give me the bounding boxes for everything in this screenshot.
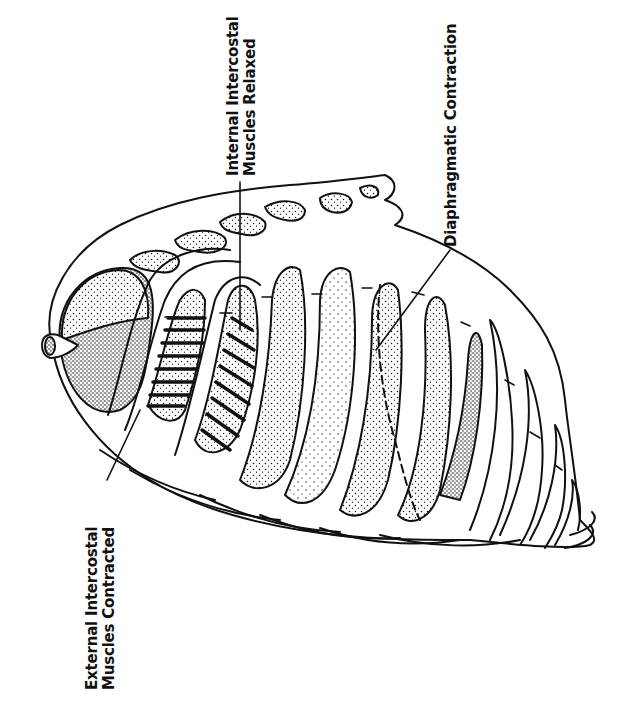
label-external-line2: Muscles Contracted [101, 527, 118, 690]
label-internal-line1: Internal Intercostal [225, 16, 242, 176]
lower-rib-3 [530, 425, 565, 548]
label-internal-line2: Muscles Relaxed [242, 16, 259, 176]
lower-rib-2 [500, 370, 543, 545]
label-internal-intercostal: Internal Intercostal Muscles Relaxed [225, 16, 259, 176]
label-diaphragm-line1: Diaphragmatic Contraction [443, 24, 460, 247]
label-external-intercostal: External Intercostal Muscles Contracted [84, 527, 118, 690]
lower-rib-4 [555, 480, 580, 545]
label-external-line1: External Intercostal [84, 527, 101, 690]
label-diaphragmatic-contraction: Diaphragmatic Contraction [443, 24, 460, 247]
